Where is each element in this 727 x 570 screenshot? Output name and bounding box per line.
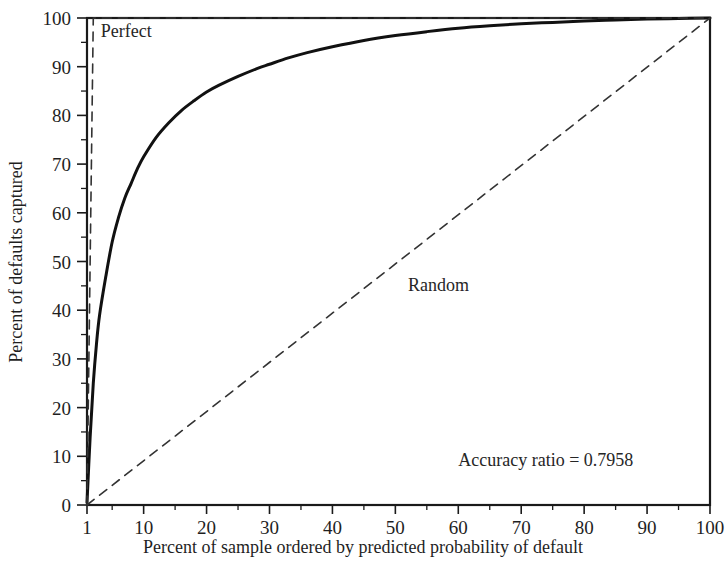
x-tick-label: 30: [260, 517, 279, 538]
figure-background: [0, 0, 727, 570]
x-tick-label: 90: [638, 517, 657, 538]
x-tick-label: 40: [323, 517, 342, 538]
x-axis-title: Percent of sample ordered by predicted p…: [143, 537, 583, 557]
x-tick-label: 60: [449, 517, 468, 538]
x-tick-label: 100: [696, 517, 725, 538]
y-axis-title: Percent of defaults captured: [6, 161, 26, 362]
chart-canvas: 1102030405060708090100 01020304050607080…: [0, 0, 727, 570]
y-tick-label: 70: [52, 154, 71, 175]
y-tick-label: 30: [52, 349, 71, 370]
y-tick-label: 10: [52, 446, 71, 467]
x-tick-label: 20: [197, 517, 216, 538]
y-tick-label: 50: [52, 252, 71, 273]
x-tick-label: 80: [575, 517, 594, 538]
x-tick-label: 70: [512, 517, 531, 538]
annotation-random: Random: [408, 275, 469, 295]
x-tick-label: 50: [386, 517, 405, 538]
y-tick-label: 90: [52, 57, 71, 78]
y-tick-label: 100: [43, 8, 72, 29]
y-tick-label: 40: [52, 300, 71, 321]
annotation-perfect: Perfect: [101, 21, 152, 41]
x-tick-label: 10: [134, 517, 153, 538]
x-tick-label: 1: [82, 517, 92, 538]
y-tick-label: 60: [52, 203, 71, 224]
cap-curve-figure: 1102030405060708090100 01020304050607080…: [0, 0, 727, 570]
y-tick-label: 0: [62, 495, 72, 516]
y-tick-label: 20: [52, 398, 71, 419]
annotation-accuracy-ratio-0-7958: Accuracy ratio = 0.7958: [458, 450, 633, 470]
y-tick-label: 80: [52, 105, 71, 126]
